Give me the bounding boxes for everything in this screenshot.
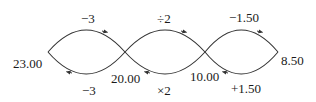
loop-3-forward-arc <box>205 30 278 52</box>
loop-2-forward-arrow <box>181 31 185 32</box>
loop-1-backward-arrow <box>68 72 72 73</box>
loop-2-backward-label: ×2 <box>157 84 171 97</box>
loop-3-forward-arrow <box>257 31 261 32</box>
loop-1-forward-arc <box>48 30 125 52</box>
loop-3-backward-label: +1.50 <box>231 82 261 95</box>
loop-1-forward-arrow <box>102 31 106 32</box>
loop-1-forward-label: −3 <box>81 12 95 25</box>
loop-3-backward-arrow <box>224 72 228 73</box>
node-value-8-50: 8.50 <box>281 54 304 67</box>
node-value-20: 20.00 <box>111 72 140 85</box>
node-value-23: 23.00 <box>13 57 42 70</box>
loop-2-forward-arc <box>125 30 205 52</box>
node-value-10: 10.00 <box>190 70 219 83</box>
loop-1-backward-label: −3 <box>82 84 96 97</box>
loop-2-backward-arrow <box>146 72 150 73</box>
loop-3-forward-label: −1.50 <box>229 11 259 24</box>
loop-2-forward-label: ÷2 <box>157 12 171 25</box>
